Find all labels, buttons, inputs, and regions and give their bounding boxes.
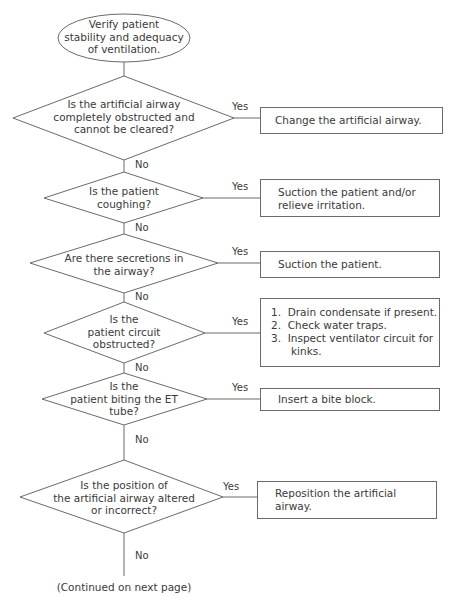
- start-line-3: of ventilation.: [64, 43, 184, 56]
- decision-1-line: cannot be cleared?: [53, 123, 194, 136]
- action-3-line: Suction the patient.: [278, 258, 382, 271]
- decision-3-line: Are there secretions in: [65, 252, 184, 265]
- yes-label-5: Yes: [232, 382, 248, 393]
- decision-1-line: Is the artificial airway: [53, 98, 194, 111]
- start-terminal: Verify patient stability and adequacy of…: [64, 18, 184, 56]
- action-1-line: Change the artificial airway.: [275, 114, 422, 127]
- decision-1-line: completely obstructed and: [53, 111, 194, 124]
- decision-2-line: coughing?: [89, 198, 159, 211]
- action-5-line: Insert a bite block.: [278, 393, 376, 406]
- action-2-line: relieve irritation.: [278, 199, 365, 212]
- decision-6: Is the position of the artificial airway…: [53, 479, 195, 517]
- yes-label-3: Yes: [232, 246, 248, 257]
- decision-6-line: or incorrect?: [53, 504, 195, 517]
- no-label-6: No: [135, 550, 149, 561]
- decision-5-line: Is the: [70, 380, 178, 393]
- decision-5-line: patient biting the ET: [70, 393, 178, 406]
- action-4-step: 1. Drain condensate if present.: [271, 306, 437, 319]
- decision-2-line: Is the patient: [89, 185, 159, 198]
- no-label-5: No: [135, 434, 149, 445]
- start-line-2: stability and adequacy: [64, 31, 184, 44]
- no-label-4: No: [135, 362, 149, 373]
- start-line-1: Verify patient: [64, 18, 184, 31]
- no-label-1: No: [135, 159, 149, 170]
- action-box-5: Insert a bite block.: [260, 388, 440, 411]
- action-4-step: kinks.: [271, 345, 322, 358]
- decision-6-line: the artificial airway altered: [53, 492, 195, 505]
- decision-3-line: the airway?: [65, 265, 184, 278]
- action-6-line: airway.: [275, 500, 312, 513]
- action-4-step: 3. Inspect ventilator circuit for: [271, 332, 433, 345]
- no-label-3: No: [135, 291, 149, 302]
- decision-5: Is the patient biting the ET tube?: [70, 380, 178, 418]
- decision-4: Is the patient circuit obstructed?: [88, 313, 161, 351]
- decision-4-line: Is the: [88, 313, 161, 326]
- decision-4-line: obstructed?: [88, 338, 161, 351]
- action-6-line: Reposition the artificial: [275, 487, 396, 500]
- decision-2: Is the patient coughing?: [89, 185, 159, 210]
- action-2-line: Suction the patient and/or: [278, 186, 416, 199]
- yes-label-6: Yes: [223, 481, 239, 492]
- continued-note: (Continued on next page): [57, 581, 192, 594]
- decision-3: Are there secretions in the airway?: [65, 252, 184, 277]
- yes-label-4: Yes: [232, 316, 248, 327]
- decision-6-line: Is the position of: [53, 479, 195, 492]
- action-box-3: Suction the patient.: [260, 251, 440, 278]
- no-label-2: No: [135, 222, 149, 233]
- action-box-6: Reposition the artificial airway.: [257, 481, 437, 519]
- decision-4-line: patient circuit: [88, 326, 161, 339]
- yes-label-2: Yes: [232, 181, 248, 192]
- action-4-step: 2. Check water traps.: [271, 319, 387, 332]
- action-box-1: Change the artificial airway.: [260, 107, 443, 134]
- action-box-4: 1. Drain condensate if present. 2. Check…: [260, 298, 440, 367]
- action-box-2: Suction the patient and/or relieve irrit…: [260, 179, 440, 217]
- decision-5-line: tube?: [70, 405, 178, 418]
- decision-1: Is the artificial airway completely obst…: [53, 98, 194, 136]
- yes-label-1: Yes: [232, 101, 248, 112]
